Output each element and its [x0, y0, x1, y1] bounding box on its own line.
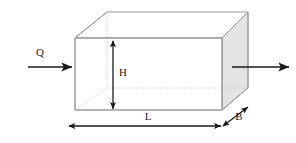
inflow-label: Q	[36, 46, 44, 58]
length-label: L	[145, 110, 152, 122]
box-top-face	[75, 12, 248, 38]
box-front-face	[75, 38, 222, 110]
breadth-label: B	[235, 110, 242, 122]
box-3d	[75, 12, 248, 110]
height-label: H	[119, 66, 127, 78]
flow-diagram-figure: Q H L B	[0, 0, 296, 143]
diagram-canvas: Q H L B	[0, 0, 296, 143]
